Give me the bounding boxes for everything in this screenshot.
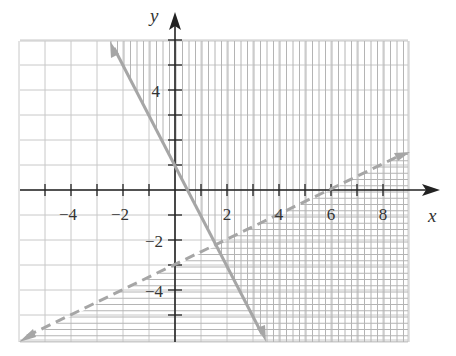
y-tick-label: 4 [152, 82, 161, 101]
x-tick-label: 4 [275, 205, 284, 224]
x-tick-label: 2 [223, 205, 232, 224]
y-tick-label: −2 [145, 232, 163, 251]
grid [19, 40, 409, 342]
x-tick-label: −4 [59, 205, 78, 224]
horizontal-hatch-region [20, 42, 408, 342]
inequality-graph: x y −4 −2 2 4 6 8 4 −2 −4 [0, 0, 456, 356]
solid-boundary-line [114, 48, 262, 334]
x-tick-label: −2 [111, 205, 129, 224]
y-axis-label: y [148, 5, 159, 26]
x-tick-label: 6 [327, 205, 336, 224]
solid-line-bottom-arrow-icon [257, 325, 266, 342]
y-tick-label: −4 [145, 282, 164, 301]
x-tick-label: 8 [379, 205, 388, 224]
x-axis-label: x [427, 205, 437, 226]
